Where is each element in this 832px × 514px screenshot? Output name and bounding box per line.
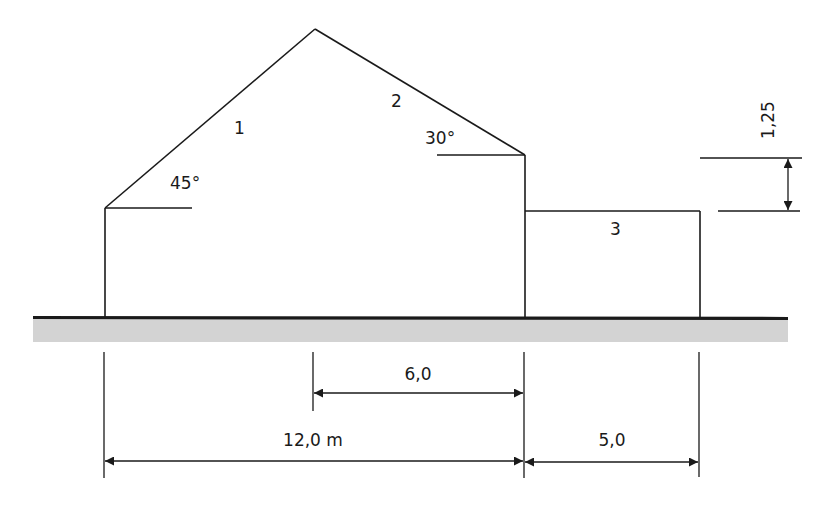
width-dimensions: 6,0 12,0 m 5,0 xyxy=(104,352,699,478)
roof-slope-2 xyxy=(315,29,525,155)
ground xyxy=(33,318,788,343)
dim-label-12: 12,0 m xyxy=(283,430,343,450)
height-dimension: 1,25 xyxy=(700,101,802,211)
ground-fill xyxy=(33,319,788,342)
building-section-diagram: 1 2 3 45° 30° 1,25 6,0 12,0 m 5,0 xyxy=(0,0,832,514)
segment-label-2: 2 xyxy=(391,91,402,111)
ground-line xyxy=(33,318,788,319)
roof-slope-1 xyxy=(105,29,315,208)
angle-label-30: 30° xyxy=(425,128,455,148)
height-dim-label: 1,25 xyxy=(758,101,778,139)
main-building xyxy=(105,29,525,318)
dim-label-5: 5,0 xyxy=(598,430,625,450)
segment-label-1: 1 xyxy=(234,118,245,138)
dim-label-6: 6,0 xyxy=(404,364,431,384)
segment-label-3: 3 xyxy=(610,219,621,239)
angle-label-45: 45° xyxy=(170,173,200,193)
